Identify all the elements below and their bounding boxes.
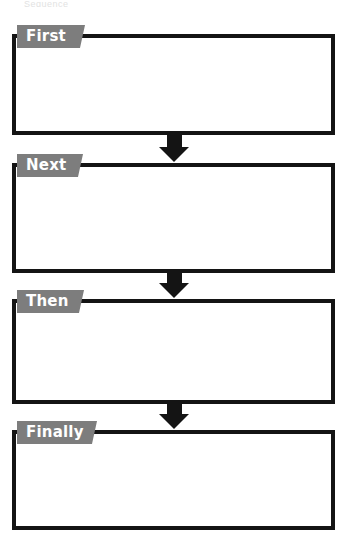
step-block-next: Next <box>12 163 335 273</box>
step-label-finally: Finally <box>17 421 97 444</box>
sequencing-graphic-organizer: Sequence First Next Then Finally <box>0 0 349 553</box>
step-textbox-then[interactable] <box>12 299 335 404</box>
step-label-next: Next <box>17 154 83 177</box>
arrow-head <box>159 147 189 162</box>
step-block-then: Then <box>12 299 335 404</box>
step-block-finally: Finally <box>12 430 335 530</box>
step-label-first: First <box>17 25 85 48</box>
step-textbox-next[interactable] <box>12 163 335 273</box>
step-textbox-finally[interactable] <box>12 430 335 530</box>
arrow-head <box>159 414 189 429</box>
cropped-header-text: Sequence <box>24 0 144 7</box>
step-label-then: Then <box>17 290 84 313</box>
arrow-head <box>159 283 189 298</box>
step-block-first: First <box>12 34 335 135</box>
step-textbox-first[interactable] <box>12 34 335 135</box>
